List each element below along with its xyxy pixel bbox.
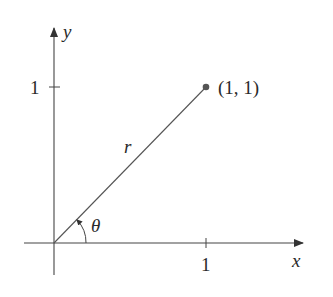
radius-segment xyxy=(54,87,206,243)
x-tick-label: 1 xyxy=(201,254,211,275)
point-label: (1, 1) xyxy=(218,77,259,99)
polar-coordinate-diagram: y x 1 1 (1, 1) r θ xyxy=(0,0,333,297)
angle-arc xyxy=(77,220,86,243)
point-1-1 xyxy=(203,84,210,91)
y-axis-label: y xyxy=(61,21,72,42)
angle-label: θ xyxy=(91,215,100,236)
x-axis-label: x xyxy=(291,250,301,271)
y-tick-label: 1 xyxy=(30,77,40,98)
radius-label: r xyxy=(124,136,132,157)
